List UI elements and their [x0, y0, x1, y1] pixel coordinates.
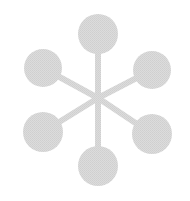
- node-bottom: [78, 146, 118, 186]
- network-hub-icon: [0, 0, 190, 201]
- icon-canvas: [0, 0, 190, 201]
- node-lower-left: [23, 112, 63, 152]
- node-lower-right: [132, 114, 172, 154]
- node-top: [78, 14, 118, 54]
- node-upper-left: [24, 49, 62, 87]
- node-upper-right: [133, 51, 171, 89]
